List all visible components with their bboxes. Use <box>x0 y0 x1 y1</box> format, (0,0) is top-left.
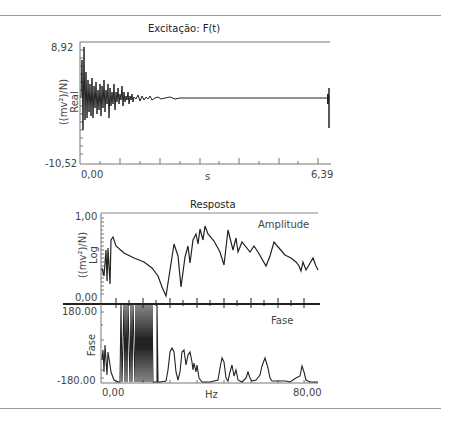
phase-curve <box>102 305 318 382</box>
chart1-signal <box>81 47 330 130</box>
charts-graphics <box>0 0 458 422</box>
separator-axis <box>63 298 320 308</box>
amplitude-axes <box>101 213 104 304</box>
amplitude-curve <box>102 226 318 296</box>
chart1-axes <box>80 42 331 164</box>
